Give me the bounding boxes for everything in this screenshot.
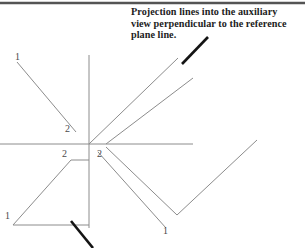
point-label-lower-left-1: 1 <box>5 211 10 221</box>
point-label-center-right-2: 2 <box>97 149 102 159</box>
point-label-mid-left-2: 2 <box>65 124 70 134</box>
pointer-leader-top <box>182 37 208 64</box>
upper-left-object-edge <box>17 62 76 132</box>
point-label-lower-left-2: 2 <box>62 149 67 159</box>
lower-left-triangle-outline <box>13 160 89 225</box>
auxiliary-vee-lower-arm <box>98 152 166 228</box>
auxiliary-projection-line-upper <box>89 58 178 144</box>
point-label-lower-right-1: 1 <box>163 226 168 236</box>
point-label-top-left-1: 1 <box>15 52 20 62</box>
drawing-canvas: Projection lines into the auxiliary view… <box>0 0 305 248</box>
auxiliary-vee-right-arm <box>177 140 257 215</box>
auxiliary-projection-line-lower <box>106 78 193 144</box>
auxiliary-vee-upper-arm <box>106 147 177 215</box>
annotation-text: Projection lines into the auxiliary view… <box>131 6 299 41</box>
